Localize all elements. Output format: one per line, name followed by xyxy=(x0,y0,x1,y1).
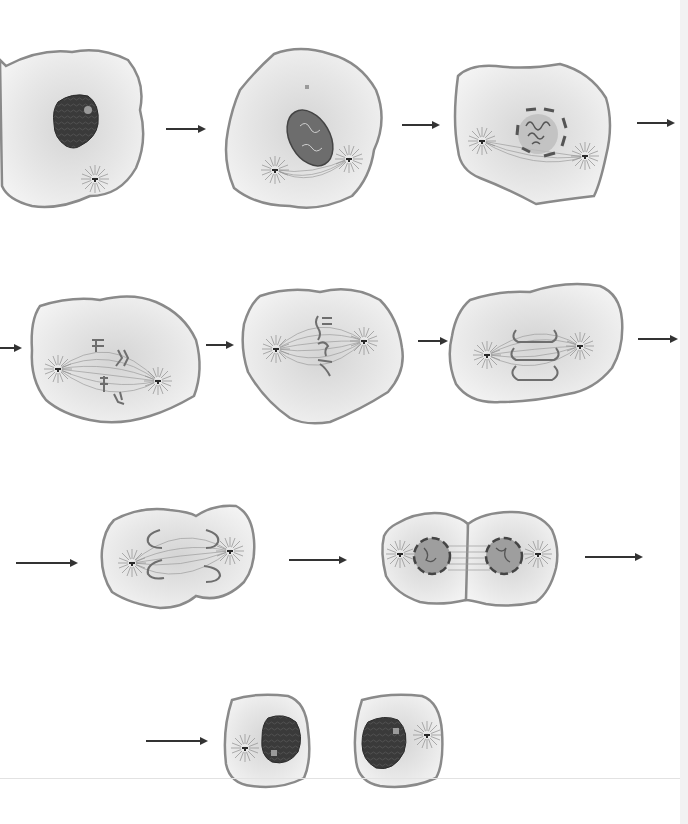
stage-prophase xyxy=(226,49,382,208)
stage-telophase xyxy=(382,512,557,606)
centrosome-icon xyxy=(473,341,501,369)
centrosome-icon xyxy=(524,540,552,568)
stage-late-anaphase xyxy=(102,506,255,608)
nucleus xyxy=(262,716,301,763)
nucleolus xyxy=(84,106,92,114)
page-fold-line xyxy=(0,778,688,779)
centrosome-icon xyxy=(386,540,414,568)
cell-membrane xyxy=(102,506,255,608)
stage-interphase xyxy=(0,50,143,207)
cell-membrane xyxy=(450,284,623,402)
stage-anaphase xyxy=(450,284,623,402)
centrosome-icon xyxy=(231,734,259,762)
stage-daughter-cells xyxy=(225,695,443,787)
centrosome-icon xyxy=(335,145,363,173)
page-edge xyxy=(680,0,688,824)
reforming-nucleus-left xyxy=(414,538,450,574)
reforming-nucleus-right xyxy=(486,538,522,574)
nucleolus xyxy=(393,728,399,734)
centrosome-icon xyxy=(118,549,146,577)
centrosome-icon xyxy=(262,335,290,363)
centrosome-icon xyxy=(81,165,109,193)
stage-metaphase xyxy=(243,289,403,423)
stage-prometaphase xyxy=(32,296,200,422)
centrosome-icon xyxy=(144,367,172,395)
nucleolus xyxy=(271,750,277,756)
centrosome-icon xyxy=(566,332,594,360)
centrosome-icon xyxy=(468,127,496,155)
stage-prometaphase-early xyxy=(455,64,610,204)
centrosome-icon xyxy=(571,142,599,170)
centrosome-icon xyxy=(413,721,441,749)
centrosome-icon xyxy=(44,355,72,383)
centrosome-icon xyxy=(350,327,378,355)
vesicle xyxy=(305,85,309,89)
centrosome-icon xyxy=(216,537,244,565)
centrosome-icon xyxy=(261,156,289,184)
cell-membrane xyxy=(243,289,403,423)
mitosis-diagram: Stages of mitosis in an animal cell xyxy=(0,0,688,824)
cell-membrane xyxy=(32,296,200,422)
